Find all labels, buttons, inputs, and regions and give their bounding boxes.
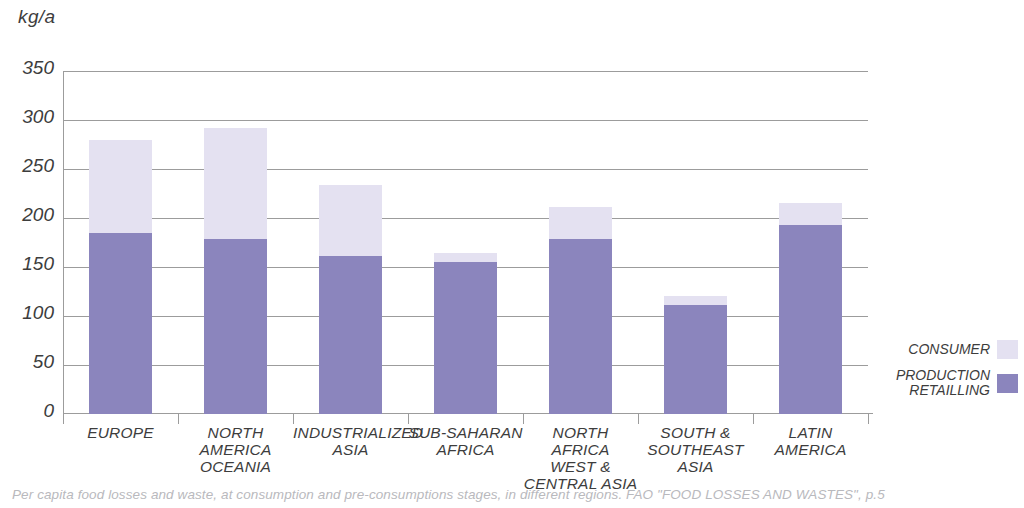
legend-item[interactable]: CONSUMER: [898, 340, 1018, 359]
x-axis-category-label-line: INDUSTRIALIZED: [293, 424, 408, 441]
bar[interactable]: [319, 185, 382, 414]
bar-segment-consumer: [779, 203, 842, 225]
x-axis-category-label: NORTH AMERICAOCEANIA: [178, 424, 293, 475]
chart-legend: CONSUMERPRODUCTION RETAILLING: [898, 340, 1018, 407]
bar[interactable]: [434, 253, 497, 414]
bar-segment-production-retailling: [204, 239, 267, 414]
x-axis-category-label-line: OCEANIA: [178, 458, 293, 475]
bar-group: [63, 71, 868, 414]
bar[interactable]: [549, 207, 612, 414]
bar-segment-production-retailling: [549, 239, 612, 414]
x-axis-category-label-line: SUB-SAHARAN: [408, 424, 523, 441]
x-axis-category-label: SUB-SAHARANAFRICA: [408, 424, 523, 458]
bar-slot: [178, 71, 293, 414]
category-labels: EUROPENORTH AMERICAOCEANIAINDUSTRIALIZED…: [63, 424, 868, 480]
y-axis-tick-label: 300: [22, 106, 54, 128]
y-axis-tick-label: 150: [22, 253, 54, 275]
bar-segment-production-retailling: [434, 262, 497, 414]
bar-segment-consumer: [664, 296, 727, 305]
x-axis-category-label-line: SOUTHEAST: [638, 441, 753, 458]
x-axis-tick: [868, 414, 869, 424]
x-axis-category-label: INDUSTRIALIZEDASIA: [293, 424, 408, 458]
y-axis-tick-label: 250: [22, 155, 54, 177]
bar-segment-production-retailling: [89, 233, 152, 414]
chart-figure: kg/a 350300250200150100500 EUROPENORTH A…: [0, 0, 1024, 508]
bar-slot: [523, 71, 638, 414]
bar-segment-consumer: [549, 207, 612, 238]
y-axis-tick-label: 50: [33, 351, 54, 373]
bar-slot: [638, 71, 753, 414]
x-axis-tick: [753, 414, 754, 424]
y-axis-tick-label: 100: [22, 302, 54, 324]
y-axis-tick-label: 350: [22, 57, 54, 79]
x-axis-tick: [408, 414, 409, 424]
x-axis-category-label-line: WEST &: [523, 458, 638, 475]
x-axis-category-label-line: NORTH AMERICA: [178, 424, 293, 458]
y-axis-tick-label: 200: [22, 204, 54, 226]
x-axis-category-label-line: NORTH AFRICA: [523, 424, 638, 458]
plot-area: 350300250200150100500: [63, 71, 868, 414]
x-axis-tick: [63, 414, 64, 424]
x-axis-tick: [293, 414, 294, 424]
bar-segment-production-retailling: [664, 305, 727, 414]
bar-segment-production-retailling: [319, 256, 382, 414]
bar-segment-production-retailling: [779, 225, 842, 414]
bar-segment-consumer: [204, 128, 267, 239]
x-axis-category-label-line: ASIA: [293, 441, 408, 458]
x-axis-category-label: EUROPE: [63, 424, 178, 441]
bar-slot: [408, 71, 523, 414]
bar-segment-consumer: [319, 185, 382, 257]
bar[interactable]: [204, 128, 267, 414]
figure-caption: Per capita food losses and waste, at con…: [12, 487, 1016, 502]
legend-item-label: PRODUCTION RETAILLING: [896, 368, 990, 398]
x-axis-category-label: LATIN AMERICA: [753, 424, 868, 458]
x-axis-category-label-line: SOUTH &: [638, 424, 753, 441]
x-axis-tick: [178, 414, 179, 424]
y-axis-unit-label: kg/a: [18, 6, 56, 28]
x-axis-category-label-line: EUROPE: [63, 424, 178, 441]
x-axis-category-label-line: ASIA: [638, 458, 753, 475]
bar-segment-consumer: [434, 253, 497, 262]
bar-slot: [63, 71, 178, 414]
x-axis-category-label-line: AFRICA: [408, 441, 523, 458]
x-axis-category-label-line: LATIN AMERICA: [753, 424, 868, 458]
bar-segment-consumer: [89, 140, 152, 233]
legend-color-swatch: [997, 374, 1018, 393]
legend-item[interactable]: PRODUCTION RETAILLING: [898, 368, 1018, 398]
bar[interactable]: [664, 296, 727, 414]
bar-slot: [293, 71, 408, 414]
legend-item-label: CONSUMER: [908, 342, 990, 357]
x-axis-category-label: SOUTH &SOUTHEASTASIA: [638, 424, 753, 475]
bar[interactable]: [779, 203, 842, 414]
bar-slot-end: [868, 71, 869, 414]
x-axis-tick: [523, 414, 524, 424]
x-axis-tick: [638, 414, 639, 424]
y-axis-tick-label: 0: [43, 400, 54, 422]
x-axis-category-label: NORTH AFRICAWEST &CENTRAL ASIA: [523, 424, 638, 492]
bar[interactable]: [89, 140, 152, 414]
bar-slot: [753, 71, 868, 414]
legend-color-swatch: [997, 340, 1018, 359]
